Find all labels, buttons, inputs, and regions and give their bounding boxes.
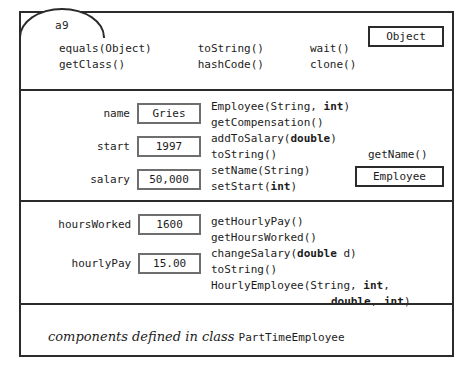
object-method-list: equals(Object) getClass() toString() has… bbox=[59, 41, 402, 73]
method-item: getName() bbox=[368, 147, 434, 163]
field-row: salary 50,000 bbox=[57, 169, 201, 190]
field-row: name Gries bbox=[57, 103, 201, 124]
method-item: getHourlyPay() bbox=[211, 214, 411, 230]
method-item: Employee(String, int) bbox=[211, 99, 350, 115]
class-name-object: Object bbox=[368, 26, 444, 47]
section-employee: Employee name Gries start 1997 salary 50… bbox=[21, 89, 452, 200]
field-value-box: 15.00 bbox=[138, 253, 201, 274]
object-diagram-frame: Object equals(Object) getClass() toStrin… bbox=[19, 11, 454, 357]
method-item: wait() bbox=[310, 41, 356, 57]
employee-method-list: Employee(String, int) getCompensation() … bbox=[211, 99, 350, 195]
method-item: changeSalary(double d) bbox=[211, 246, 411, 262]
hourly-method-list: getHourlyPay() getHoursWorked() changeSa… bbox=[211, 214, 411, 310]
object-method-column-2: toString() hashCode() bbox=[198, 41, 264, 73]
method-item: toString() bbox=[198, 41, 264, 57]
object-name-label: a9 bbox=[21, 19, 103, 32]
section-parttime-employee: PartTimeEmployee components defined in c… bbox=[21, 303, 452, 355]
field-value-box: Gries bbox=[137, 103, 201, 124]
method-item: clone() bbox=[310, 57, 356, 73]
method-item: getHoursWorked() bbox=[211, 230, 411, 246]
parttime-caption: components defined in class PartTimeEmpl… bbox=[48, 329, 345, 344]
caption-class-name: PartTimeEmployee bbox=[239, 331, 345, 344]
method-item: toString() bbox=[211, 147, 350, 163]
field-label: hourlyPay bbox=[41, 257, 138, 270]
field-value-box: 1997 bbox=[137, 136, 201, 157]
method-item: getClass() bbox=[59, 57, 152, 73]
object-method-column-3: wait() clone() bbox=[310, 41, 356, 73]
method-item: setStart(int) bbox=[211, 179, 350, 195]
method-item: hashCode() bbox=[198, 57, 264, 73]
method-item: setName(String) bbox=[211, 163, 350, 179]
method-item: addToSalary(double) bbox=[211, 131, 350, 147]
hourly-field-list: hoursWorked 1600 hourlyPay 15.00 bbox=[41, 214, 201, 292]
field-label: salary bbox=[68, 173, 137, 186]
field-label: start bbox=[68, 140, 137, 153]
field-row: start 1997 bbox=[57, 136, 201, 157]
method-item: equals(Object) bbox=[59, 41, 152, 57]
class-name-employee: Employee bbox=[355, 166, 444, 187]
field-label: hoursWorked bbox=[41, 218, 138, 231]
field-row: hourlyPay 15.00 bbox=[41, 253, 201, 274]
method-item: toString() bbox=[211, 262, 411, 278]
field-label: name bbox=[68, 107, 137, 120]
field-value-box: 1600 bbox=[138, 214, 201, 235]
caption-italic-text: components defined in class bbox=[48, 329, 239, 344]
section-hourly-employee: HourlyEmployee hoursWorked 1600 hourlyPa… bbox=[21, 200, 452, 303]
field-row: hoursWorked 1600 bbox=[41, 214, 201, 235]
method-item: getCompensation() bbox=[211, 115, 350, 131]
employee-field-list: name Gries start 1997 salary 50,000 bbox=[57, 103, 201, 202]
method-item: HourlyEmployee(String, int, bbox=[211, 278, 411, 294]
field-value-box: 50,000 bbox=[137, 169, 201, 190]
object-method-column-1: equals(Object) getClass() bbox=[59, 41, 152, 73]
